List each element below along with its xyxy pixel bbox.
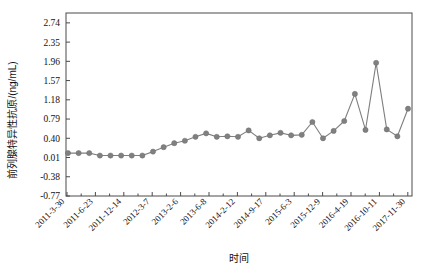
data-point-marker[interactable] xyxy=(363,127,368,132)
data-point-marker[interactable] xyxy=(214,134,219,139)
x-axis-tick-label: 2014-2-12 xyxy=(203,196,237,230)
data-point-marker[interactable] xyxy=(246,128,251,133)
data-point-marker[interactable] xyxy=(267,133,272,138)
data-point-marker[interactable] xyxy=(97,153,102,158)
x-axis-tick-label: 2013-2-6 xyxy=(150,196,181,227)
data-point-marker[interactable] xyxy=(150,149,155,154)
data-point-marker[interactable] xyxy=(140,153,145,158)
y-axis-tick-label: 2.35 xyxy=(43,38,60,48)
x-axis-tick-label: 2015-12-9 xyxy=(288,196,322,230)
y-axis-tick-label: 0.01 xyxy=(43,153,60,163)
y-axis-tick-label: 1.57 xyxy=(43,76,60,86)
x-axis-tick-label: 2012-3-7 xyxy=(121,196,152,227)
data-point-marker[interactable] xyxy=(257,136,262,141)
data-point-marker[interactable] xyxy=(161,145,166,150)
x-axis-title: 时间 xyxy=(229,252,249,264)
data-point-marker[interactable] xyxy=(299,132,304,137)
series-line-psa xyxy=(68,63,408,156)
data-point-marker[interactable] xyxy=(182,138,187,143)
data-point-marker[interactable] xyxy=(395,134,400,139)
data-point-marker[interactable] xyxy=(289,133,294,138)
data-point-marker[interactable] xyxy=(320,136,325,141)
data-point-marker[interactable] xyxy=(384,127,389,132)
data-point-marker[interactable] xyxy=(204,131,209,136)
chart-container: -0.77-0.380.010.400.791.181.571.962.352.… xyxy=(0,0,434,270)
y-axis-tick-label: 1.96 xyxy=(43,57,60,67)
data-point-marker[interactable] xyxy=(76,150,81,155)
data-point-marker[interactable] xyxy=(405,106,410,111)
data-point-marker[interactable] xyxy=(374,60,379,65)
data-point-marker[interactable] xyxy=(310,119,315,124)
data-point-marker[interactable] xyxy=(119,153,124,158)
data-point-marker[interactable] xyxy=(352,91,357,96)
y-axis-tick-label: 0.79 xyxy=(43,114,60,124)
plot-area-border xyxy=(66,13,412,196)
data-point-marker[interactable] xyxy=(225,134,230,139)
y-axis-tick-label: 2.74 xyxy=(43,18,60,28)
data-point-marker[interactable] xyxy=(331,128,336,133)
y-axis-tick-label: 0.40 xyxy=(43,134,60,144)
y-axis-tick-label: 1.18 xyxy=(43,95,60,105)
data-point-marker[interactable] xyxy=(87,150,92,155)
data-point-marker[interactable] xyxy=(235,134,240,139)
data-point-marker[interactable] xyxy=(65,150,70,155)
psa-line-chart: -0.77-0.380.010.400.791.181.571.962.352.… xyxy=(0,0,434,270)
data-point-marker[interactable] xyxy=(129,153,134,158)
data-point-marker[interactable] xyxy=(193,134,198,139)
data-point-marker[interactable] xyxy=(108,153,113,158)
y-axis-title: 前列腺特异性抗原/(ng/mL) xyxy=(6,61,18,178)
data-point-marker[interactable] xyxy=(342,118,347,123)
y-axis-tick-label: -0.38 xyxy=(40,172,60,182)
x-axis-tick-label: 2014-9-17 xyxy=(232,196,266,230)
data-point-marker[interactable] xyxy=(278,130,283,135)
data-point-marker[interactable] xyxy=(172,141,177,146)
